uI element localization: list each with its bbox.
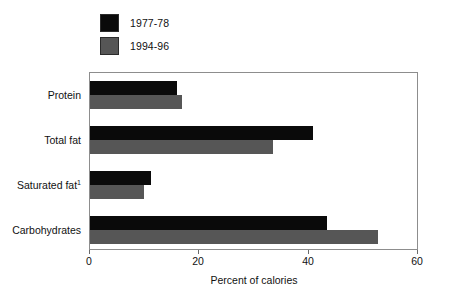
category-label-protein: Protein	[0, 89, 81, 101]
x-axis-title: Percent of calories	[89, 274, 419, 286]
bar-saturated-fat-1977	[90, 171, 151, 185]
category-label-saturated-fat-text: Saturated fat	[17, 179, 77, 191]
bar-protein-1977	[90, 81, 177, 95]
x-tick-label-20: 20	[192, 255, 204, 267]
footnote-marker-1: 1	[77, 179, 81, 186]
category-label-protein-text: Protein	[48, 89, 81, 101]
chart-plot-area	[90, 73, 417, 249]
bar-total-fat-1977	[90, 126, 313, 140]
bar-group-saturated-fat	[90, 171, 417, 201]
legend-item-1994: 1994-96	[100, 36, 260, 55]
bar-total-fat-1994	[90, 140, 273, 154]
x-tick-0	[89, 250, 90, 254]
x-tick-60	[417, 250, 418, 254]
x-tick-label-0: 0	[86, 255, 92, 267]
category-label-carbohydrates-text: Carbohydrates	[12, 224, 81, 236]
bar-group-protein	[90, 81, 417, 111]
category-label-total-fat: Total fat	[0, 134, 81, 146]
bar-group-carbohydrates	[90, 216, 417, 246]
category-label-total-fat-text: Total fat	[44, 134, 81, 146]
x-tick-label-40: 40	[302, 255, 314, 267]
x-tick-label-60: 60	[411, 255, 423, 267]
bar-protein-1994	[90, 95, 182, 109]
legend-item-1977: 1977-78	[100, 13, 260, 32]
category-label-carbohydrates: Carbohydrates	[0, 224, 81, 236]
x-tick-40	[308, 250, 309, 254]
chart-legend: 1977-78 1994-96	[100, 13, 260, 59]
bar-carbohydrates-1994	[90, 230, 378, 244]
legend-swatch-1994-icon	[100, 37, 119, 55]
bar-saturated-fat-1994	[90, 185, 144, 199]
category-label-saturated-fat: Saturated fat1	[0, 179, 81, 191]
legend-label-1994: 1994-96	[130, 40, 169, 52]
legend-label-1977: 1977-78	[130, 17, 169, 29]
legend-swatch-1977-icon	[100, 14, 119, 32]
x-tick-20	[198, 250, 199, 254]
chart-plot-frame	[89, 72, 418, 250]
category-axis-labels: Protein Total fat Saturated fat1 Carbohy…	[0, 72, 85, 250]
bar-group-total-fat	[90, 126, 417, 156]
bar-carbohydrates-1977	[90, 216, 327, 230]
